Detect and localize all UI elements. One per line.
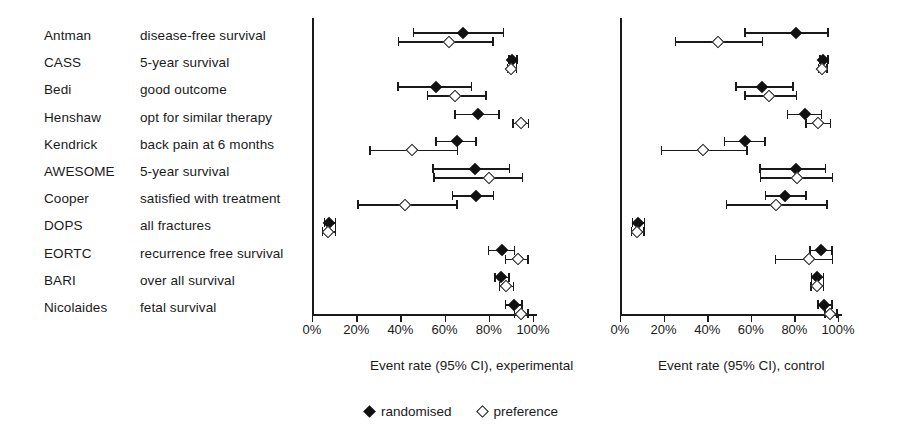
- forest-row: [620, 267, 868, 294]
- confidence-interval-cap: [805, 119, 807, 128]
- forest-row: [620, 240, 868, 267]
- marker-randomised: [790, 26, 803, 39]
- plot-area-control: 0%20%40%60%80%100%: [620, 18, 868, 316]
- study-outcome: 5-year survival: [140, 164, 229, 179]
- confidence-interval-cap: [435, 137, 437, 146]
- confidence-interval-cap: [513, 282, 515, 291]
- forest-row: [312, 104, 562, 131]
- x-axis-tick-label: 0%: [611, 322, 630, 337]
- x-axis-tick-label: 80%: [476, 322, 502, 337]
- marker-randomised: [468, 162, 481, 175]
- study-label-column: Antmandisease-free survivalCASS5-year su…: [44, 22, 306, 321]
- confidence-interval-cap: [398, 37, 400, 46]
- marker-preference: [631, 226, 644, 239]
- study-name: Bedi: [44, 82, 140, 97]
- marker-randomised: [430, 81, 443, 94]
- confidence-interval-cap: [488, 246, 490, 255]
- study-outcome: satisfied with treatment: [140, 191, 280, 206]
- legend-item: randomised: [365, 404, 452, 419]
- study-name: Henshaw: [44, 110, 140, 125]
- confidence-interval-cap: [675, 37, 677, 46]
- marker-preference: [697, 144, 710, 157]
- confidence-interval-cap: [823, 273, 825, 282]
- study-label-row: EORTCrecurrence free survival: [44, 240, 306, 267]
- panel-experimental: 0%20%40%60%80%100%: [312, 18, 562, 330]
- marker-preference: [812, 117, 825, 130]
- study-label-row: Antmandisease-free survival: [44, 22, 306, 49]
- x-axis-tick-label: 20%: [651, 322, 677, 337]
- x-axis-tick-label: 100%: [821, 322, 854, 337]
- confidence-interval-cap: [432, 164, 434, 173]
- forest-row: [620, 76, 868, 103]
- confidence-interval-cap: [413, 28, 415, 37]
- forest-row: [312, 267, 562, 294]
- confidence-interval-cap: [475, 137, 477, 146]
- x-axis-tick-label: 20%: [343, 322, 369, 337]
- filled-diamond-icon: [363, 405, 376, 418]
- forest-row: [312, 158, 562, 185]
- marker-preference: [449, 90, 462, 103]
- study-label-row: Nicolaidesfetal survival: [44, 294, 306, 321]
- marker-preference: [711, 35, 724, 48]
- x-axis-tick-label: 80%: [781, 322, 807, 337]
- confidence-interval-cap: [661, 146, 663, 155]
- forest-row: [620, 158, 868, 185]
- confidence-interval-cap: [744, 91, 746, 100]
- x-axis-tick-label: 40%: [694, 322, 720, 337]
- confidence-interval-cap: [397, 82, 399, 91]
- x-axis-tick-label: 100%: [516, 322, 549, 337]
- confidence-interval-cap: [457, 146, 459, 155]
- confidence-interval-cap: [522, 173, 524, 182]
- study-label-row: AWESOME5-year survival: [44, 158, 306, 185]
- confidence-interval-cap: [505, 255, 507, 264]
- panel-control: 0%20%40%60%80%100%: [620, 18, 868, 330]
- forest-row: [620, 104, 868, 131]
- study-outcome: fetal survival: [140, 300, 216, 315]
- confidence-interval-cap: [765, 191, 767, 200]
- legend-label: preference: [494, 404, 559, 419]
- study-label-row: Coopersatisfied with treatment: [44, 185, 306, 212]
- confidence-interval-cap: [512, 119, 514, 128]
- study-name: Kendrick: [44, 137, 140, 152]
- study-name: Antman: [44, 28, 140, 43]
- x-axis-title-control: Event rate (95% CI), control: [658, 358, 825, 373]
- confidence-interval-cap: [827, 28, 829, 37]
- forest-row: [312, 49, 562, 76]
- confidence-interval-preference: [433, 177, 522, 179]
- marker-preference: [442, 35, 455, 48]
- study-outcome: good outcome: [140, 82, 227, 97]
- forest-row: [620, 22, 868, 49]
- confidence-interval-cap: [746, 146, 748, 155]
- study-outcome: all fractures: [140, 218, 211, 233]
- study-label-row: DOPSall fractures: [44, 212, 306, 239]
- marker-preference: [763, 90, 776, 103]
- study-name: EORTC: [44, 246, 140, 261]
- confidence-interval-cap: [454, 110, 456, 119]
- forest-row: [312, 76, 562, 103]
- confidence-interval-cap: [528, 119, 530, 128]
- marker-randomised: [496, 244, 509, 257]
- marker-preference: [406, 144, 419, 157]
- confidence-interval-cap: [792, 82, 794, 91]
- confidence-interval-cap: [335, 227, 337, 236]
- study-outcome: disease-free survival: [140, 28, 266, 43]
- forest-row: [620, 131, 868, 158]
- confidence-interval-cap: [831, 300, 833, 309]
- confidence-interval-cap: [498, 110, 500, 119]
- confidence-interval-cap: [508, 273, 510, 282]
- confidence-interval-cap: [831, 246, 833, 255]
- study-outcome: opt for similar therapy: [140, 110, 272, 125]
- confidence-interval-cap: [427, 91, 429, 100]
- study-outcome: back pain at 6 months: [140, 137, 274, 152]
- confidence-interval-cap: [493, 191, 495, 200]
- marker-randomised: [471, 108, 484, 121]
- study-name: Nicolaides: [44, 300, 140, 315]
- confidence-interval-cap: [471, 82, 473, 91]
- confidence-interval-cap: [805, 191, 807, 200]
- confidence-interval-cap: [744, 28, 746, 37]
- forest-row: [312, 212, 562, 239]
- forest-row: [312, 22, 562, 49]
- study-name: DOPS: [44, 218, 140, 233]
- x-axis-tick-label: 40%: [387, 322, 413, 337]
- study-outcome: over all survival: [140, 273, 235, 288]
